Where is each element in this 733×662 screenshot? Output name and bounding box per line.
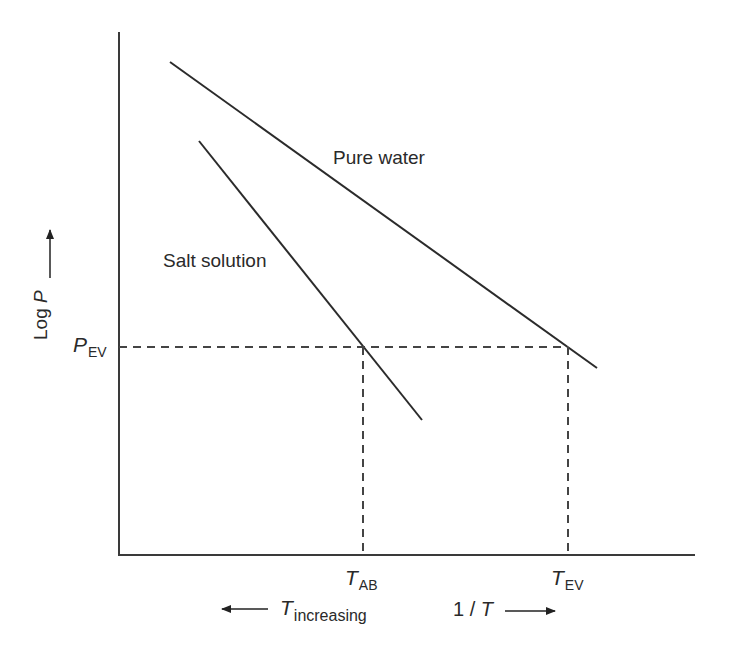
pure-water-line (170, 62, 597, 368)
t-increasing-sub: increasing (294, 607, 367, 624)
inverse-t-label: 1 / T (453, 598, 493, 621)
pure-water-label: Pure water (333, 147, 425, 169)
y-axis-label-text: Log (30, 303, 51, 340)
chart-canvas (0, 0, 733, 662)
y-axis-label: Log P (30, 290, 52, 340)
inverse-t-var: T (481, 598, 493, 620)
salt-solution-line (199, 141, 422, 420)
p-ev-label: PEV (73, 333, 107, 357)
t-ev-main: T (551, 566, 564, 589)
salt-solution-label: Salt solution (163, 250, 267, 272)
t-increasing-main: T (280, 596, 293, 619)
t-ab-sub: AB (359, 577, 378, 593)
p-ev-sub: EV (88, 344, 107, 360)
y-axis-label-var: P (30, 290, 51, 303)
t-ab-label: TAB (345, 566, 378, 590)
inverse-t-prefix: 1 / (453, 598, 481, 620)
p-ev-main: P (73, 333, 87, 356)
t-increasing-label: Tincreasing (280, 596, 367, 620)
t-ab-main: T (345, 566, 358, 589)
t-ev-sub: EV (565, 577, 584, 593)
t-ev-label: TEV (551, 566, 584, 590)
